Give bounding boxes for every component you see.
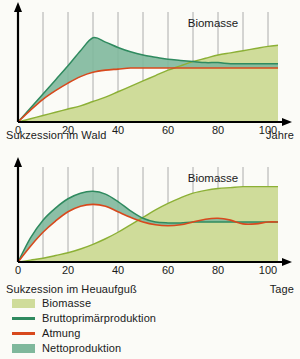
legend-swatch-nettoproduktion <box>12 344 35 353</box>
x-tick-label: 0 <box>15 264 21 276</box>
legend-item-bruttoprimaerproduktion: Bruttoprimärproduktion <box>12 311 292 325</box>
x-tick-label: 20 <box>62 264 74 276</box>
annotation-biomasse: Biomasse <box>188 17 239 29</box>
legend-item-biomasse: Biomasse <box>12 296 292 310</box>
forest-axis-unit: Jahre <box>266 129 294 141</box>
chart-succession-hay-infusion: 020406080100Biomasse <box>0 155 300 280</box>
hay-infusion-caption-left: Sukzession im Heuaufguß <box>6 283 137 295</box>
y-axis-arrow <box>14 2 22 12</box>
forest-plot-area: 020406080100Biomasse <box>0 0 300 150</box>
y-axis-arrow <box>14 157 22 167</box>
legend-line-atmung <box>12 332 35 335</box>
x-tick-label: 80 <box>212 264 224 276</box>
forest-caption-left: Sukzession im Wald <box>6 129 106 141</box>
hay-infusion-axis-unit: Tage <box>270 283 294 295</box>
legend-line-bruttoprimaerproduktion <box>12 317 35 320</box>
legend-label-nettoproduktion: Nettoproduktion <box>42 342 121 354</box>
series-area-biomasse <box>18 187 278 262</box>
x-tick-label: 80 <box>212 124 224 136</box>
legend-label-atmung: Atmung <box>42 327 81 339</box>
legend-item-atmung: Atmung <box>12 326 292 340</box>
succession-figure: 020406080100Biomasse Sukzession im Wald … <box>0 0 300 359</box>
x-tick-label: 100 <box>259 264 277 276</box>
x-tick-label: 60 <box>162 264 174 276</box>
hay-infusion-plot-area: 020406080100Biomasse <box>0 155 300 280</box>
x-tick-label: 40 <box>112 124 124 136</box>
legend-item-nettoproduktion: Nettoproduktion <box>12 341 292 355</box>
legend-label-biomasse: Biomasse <box>42 297 91 309</box>
legend-label-bruttoprimaerproduktion: Bruttoprimärproduktion <box>42 312 156 324</box>
x-axis-arrow <box>282 258 292 266</box>
x-tick-label: 40 <box>112 264 124 276</box>
legend: Biomasse Bruttoprimärproduktion Atmung N… <box>12 296 292 356</box>
annotation-biomasse: Biomasse <box>188 172 239 184</box>
x-tick-label: 60 <box>162 124 174 136</box>
x-tick-labels: 020406080100 <box>15 264 277 276</box>
x-axis-arrow <box>282 118 292 126</box>
legend-swatch-biomasse <box>12 299 35 308</box>
chart-succession-forest: 020406080100Biomasse <box>0 0 300 150</box>
